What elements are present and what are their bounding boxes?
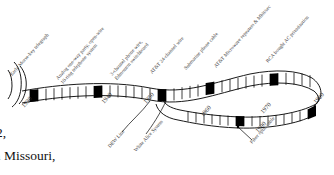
technology-labels: Early Morse-key telegraph Analog one-way…: [8, 3, 310, 85]
tech-label-telegraph: Early Morse-key telegraph: [8, 31, 50, 76]
ribbon-left-fold-lower-2: [156, 104, 178, 120]
year-label-1980: 1980: [312, 91, 325, 105]
svg-text:RCA bought AC privatization: RCA bought AC privatization: [264, 14, 310, 64]
svg-text:Analog one-way party, open-wir: Analog one-way party, open-wire: [54, 25, 105, 81]
bottom-label-dew-line: DEW Line: [106, 128, 126, 149]
bottom-labels: DEW Line White Alice System Fiber optic …: [106, 115, 276, 153]
tech-label-3-channel: 3-channel phone wire, Edmonton switchboa…: [108, 37, 149, 81]
decade-marker-1970: [270, 73, 278, 86]
ribbon-segment-dividers-top: [30, 73, 310, 102]
tech-label-att-24-channel: AT&T 24-channel wire: [148, 35, 185, 75]
leader-line-dew: [122, 101, 150, 132]
decade-marker-1960: [206, 82, 214, 95]
leader-dot-fiber: [237, 126, 240, 129]
tech-label-party-line: Analog one-way party, open-wire 10-ring …: [54, 25, 110, 85]
page-body-line-2: in Missouri,: [0, 147, 55, 164]
tech-label-microwave-repeaters: AT&T Microwave repeaters & Mbit/sec: [212, 3, 272, 69]
svg-text:AT&T 24-channel wire: AT&T 24-channel wire: [148, 35, 185, 75]
decade-marker-1990: [236, 116, 244, 126]
tech-label-rca-privatization: RCA bought AC privatization: [264, 14, 310, 64]
ribbon-edge-bottom-1: [22, 83, 314, 103]
bottom-label-fiber-optic: Fiber optic cable: [248, 115, 276, 145]
svg-text:Early Morse-key telegraph: Early Morse-key telegraph: [8, 31, 50, 76]
year-label-1950: 1950: [142, 91, 155, 105]
decade-marker-1940: [94, 86, 102, 98]
year-label-1970: 1970: [259, 101, 272, 115]
leader-lines: [122, 101, 252, 140]
decade-marker-1950: [158, 89, 166, 101]
svg-text:AT&T Microwave repeaters & Mbi: AT&T Microwave repeaters & Mbit/sec: [212, 3, 272, 69]
page-body-line-1: 2,: [0, 124, 6, 141]
year-label-1960: 1960: [199, 104, 212, 118]
bottom-label-white-alice: White Alice System: [132, 118, 164, 152]
